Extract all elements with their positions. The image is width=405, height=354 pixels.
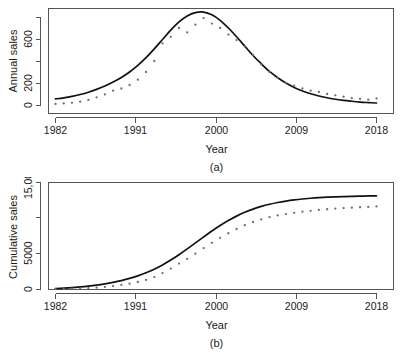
x-tick-label-2009-b: 2009: [285, 300, 309, 312]
chart-panel-b: 15,000 5000 0 Cumulative sales 1982 1991…: [0, 177, 405, 354]
data-point: [161, 42, 163, 44]
panel-a-plot: 600 200 0 Annual sales 1982 1991 2000 20…: [0, 0, 405, 177]
data-point: [203, 247, 205, 249]
data-point: [112, 285, 114, 287]
data-point: [219, 237, 221, 239]
data-point: [227, 33, 229, 35]
data-point: [79, 101, 81, 103]
data-point: [342, 207, 344, 209]
data-point: [318, 91, 320, 93]
data-point: [326, 93, 328, 95]
data-point: [318, 209, 320, 211]
data-point: [145, 71, 147, 73]
chart-panel-a: 600 200 0 Annual sales 1982 1991 2000 20…: [0, 0, 405, 177]
plot-frame-a: [49, 9, 394, 114]
data-point: [104, 286, 106, 288]
data-point: [268, 216, 270, 218]
x-axis-title-a: Year: [205, 143, 228, 155]
data-point: [128, 84, 130, 86]
data-point: [178, 27, 180, 29]
y-axis-title-a: Annual sales: [7, 29, 19, 92]
data-point: [219, 27, 221, 29]
data-point: [153, 60, 155, 62]
data-point: [235, 39, 237, 41]
panel-b-plot: 15,000 5000 0 Cumulative sales 1982 1991…: [0, 177, 405, 354]
data-point: [194, 253, 196, 255]
data-point: [137, 281, 139, 283]
x-tick-label-2018-a: 2018: [365, 124, 389, 136]
data-point: [252, 54, 254, 56]
data-point: [186, 258, 188, 260]
data-point: [120, 87, 122, 89]
data-point: [79, 287, 81, 289]
panel-caption-a: (a): [210, 161, 223, 173]
data-point: [211, 242, 213, 244]
x-tick-label-2018-b: 2018: [365, 300, 389, 312]
data-point: [359, 98, 361, 100]
x-tick-label-1991-a: 1991: [124, 124, 148, 136]
plot-frame-b: [49, 183, 394, 290]
data-point: [211, 22, 213, 24]
x-tick-label-2009-a: 2009: [285, 124, 309, 136]
data-point: [203, 17, 205, 19]
data-point: [54, 103, 56, 105]
data-point: [293, 212, 295, 214]
y-tick-label-200-a: 200: [22, 74, 34, 92]
data-point: [268, 71, 270, 73]
data-point: [194, 24, 196, 26]
data-point: [285, 82, 287, 84]
scatter-points-a: [54, 17, 377, 105]
data-point: [367, 99, 369, 101]
y-tick-label-15000-b: 15,000: [22, 177, 34, 199]
data-point: [375, 97, 377, 99]
data-point: [359, 206, 361, 208]
data-point: [375, 205, 377, 207]
data-point: [145, 279, 147, 281]
data-point: [334, 207, 336, 209]
data-point: [63, 288, 65, 290]
data-point: [293, 85, 295, 87]
panel-caption-b: (b): [210, 337, 223, 349]
data-point: [260, 63, 262, 65]
data-point: [310, 210, 312, 212]
y-tick-label-5000-b: 5000: [22, 241, 34, 265]
x-tick-label-2000-a: 2000: [205, 124, 229, 136]
y-tick-label-0-b: 0: [22, 286, 34, 292]
data-point: [161, 272, 163, 274]
data-point: [244, 46, 246, 48]
x-axis-title-b: Year: [205, 319, 228, 331]
data-point: [351, 206, 353, 208]
data-point: [342, 96, 344, 98]
data-point: [252, 221, 254, 223]
data-point: [137, 79, 139, 81]
data-point: [310, 90, 312, 92]
data-point: [96, 96, 98, 98]
data-point: [367, 206, 369, 208]
data-point: [71, 102, 73, 104]
data-point: [96, 286, 98, 288]
data-point: [351, 97, 353, 99]
x-tick-label-1982-a: 1982: [44, 124, 68, 136]
data-point: [301, 211, 303, 213]
x-tick-label-1982-b: 1982: [44, 300, 68, 312]
data-point: [244, 224, 246, 226]
data-point: [71, 288, 73, 290]
data-point: [277, 77, 279, 79]
data-point: [260, 218, 262, 220]
x-tick-label-2000-b: 2000: [205, 300, 229, 312]
two-panel-figure: 600 200 0 Annual sales 1982 1991 2000 20…: [0, 0, 405, 354]
data-point: [153, 276, 155, 278]
x-tick-label-1991-b: 1991: [124, 300, 148, 312]
data-point: [120, 284, 122, 286]
fitted-curve-b: [56, 196, 377, 289]
data-point: [112, 90, 114, 92]
data-point: [277, 214, 279, 216]
y-axis-title-b: Cumulative sales: [7, 195, 19, 279]
data-point: [128, 283, 130, 285]
data-point: [227, 232, 229, 234]
data-point: [87, 99, 89, 101]
y-tick-label-0-a: 0: [22, 102, 34, 108]
data-point: [326, 208, 328, 210]
data-point: [54, 288, 56, 290]
data-point: [235, 228, 237, 230]
